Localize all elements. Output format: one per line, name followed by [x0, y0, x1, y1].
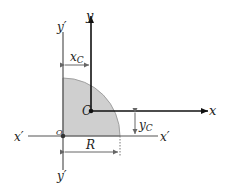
- y-axis-label: y: [85, 8, 94, 23]
- origin-label: O: [56, 128, 63, 137]
- y-prime-top-label: y′: [56, 20, 67, 34]
- x-axis-label: x: [209, 103, 217, 118]
- xc-label: xC: [70, 50, 84, 65]
- yc-label: yC: [138, 118, 153, 133]
- centroid-label: C: [82, 104, 91, 118]
- centroid-diagram: y x y′ y′ x′ x′ C O xC yC R: [0, 0, 225, 185]
- radius-label: R: [85, 138, 95, 152]
- y-prime-bottom-label: y′: [56, 169, 67, 183]
- x-prime-right-label: x′: [160, 130, 170, 144]
- x-prime-left-label: x′: [14, 130, 24, 144]
